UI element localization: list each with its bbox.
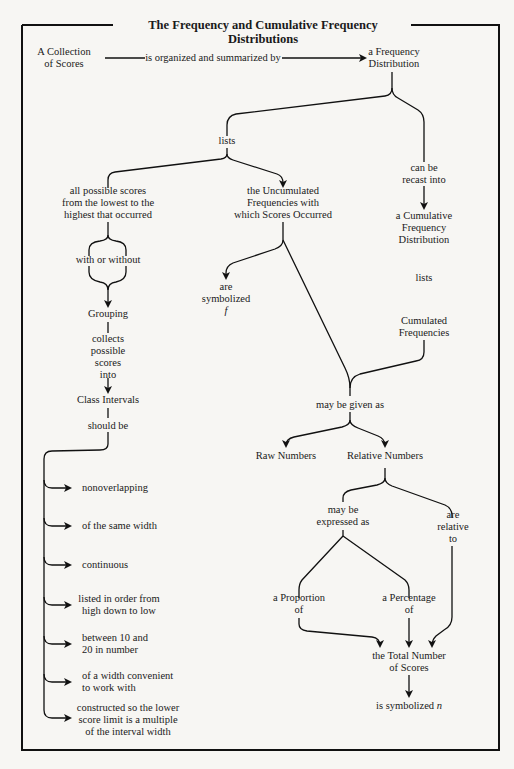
symbol-f: f <box>225 305 228 317</box>
node-uncumulated-frequencies: the Uncumulated Frequencies with which S… <box>234 185 332 221</box>
symbolized-label: is symbolized <box>376 700 437 711</box>
node-raw-numbers: Raw Numbers <box>256 450 316 462</box>
node-grouping: Grouping <box>88 308 128 320</box>
link-should-be: should be <box>88 420 129 432</box>
link-are-symbolized: are symbolized <box>202 281 250 305</box>
node-frequency-distribution: a Frequency Distribution <box>368 46 420 70</box>
rule-continuous: continuous <box>82 559 128 571</box>
diagram-title: The Frequency and Cumulative Frequency D… <box>115 18 411 46</box>
link-may-be-expressed-as: may be expressed as <box>317 504 370 528</box>
link-may-be-given-as: may be given as <box>316 399 384 411</box>
node-total-number-of-scores: the Total Number of Scores <box>372 650 446 674</box>
node-cumulative-frequency-distribution: a Cumulative Frequency Distribution <box>396 210 452 246</box>
node-collection-of-scores: A Collection of Scores <box>37 46 90 70</box>
link-with-or-without: with or without <box>76 254 141 266</box>
link-can-be-recast: can be recast into <box>402 162 445 186</box>
link-lists: lists <box>219 135 236 147</box>
node-is-symbolized-n: is symbolized n <box>376 700 442 712</box>
symbol-n: n <box>437 700 442 711</box>
rule-same-width: of the same width <box>82 520 157 532</box>
rule-lower-limit-multiple: constructed so the lower score limit is … <box>77 702 179 738</box>
node-a-proportion-of: a Proportion of <box>273 592 325 616</box>
link-collects-possible-scores-into: collects possible scores into <box>91 333 125 381</box>
node-class-intervals: Class Intervals <box>77 394 139 406</box>
node-a-percentage-of: a Percentage of <box>382 592 435 616</box>
link-are-relative-to: are relative to <box>437 509 468 545</box>
rule-10-to-20: between 10 and 20 in number <box>82 632 148 656</box>
link-organized-by: is organized and summarized by <box>145 52 281 64</box>
node-all-possible-scores: all possible scores from the lowest to t… <box>62 185 154 221</box>
rule-convenient-width: of a width convenient to work with <box>82 670 173 694</box>
link-lists-cumulated: lists <box>416 272 433 284</box>
concept-map: The Frequency and Cumulative Frequency D… <box>0 0 514 769</box>
rule-nonoverlapping: nonoverlapping <box>82 482 148 494</box>
node-cumulated-frequencies: Cumulated Frequencies <box>399 315 450 339</box>
node-relative-numbers: Relative Numbers <box>347 450 423 462</box>
rule-high-to-low: listed in order from high down to low <box>78 593 159 617</box>
